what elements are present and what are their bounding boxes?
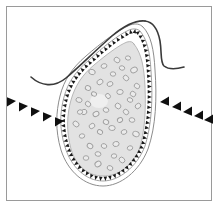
vesicle: [117, 89, 124, 95]
figure-root: [0, 0, 220, 208]
vesicle: [79, 133, 85, 138]
vesicle: [111, 154, 117, 159]
vesicle: [110, 72, 116, 77]
vesicle: [109, 125, 116, 131]
vesicle: [129, 117, 135, 123]
vesicle: [113, 141, 120, 147]
biological-illustration: [0, 0, 220, 208]
vesicle: [125, 55, 131, 60]
vesicle: [83, 156, 89, 161]
vesicle: [95, 151, 102, 157]
